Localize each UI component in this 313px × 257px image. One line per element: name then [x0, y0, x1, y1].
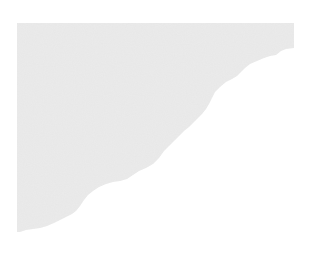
paper-fragment [17, 23, 294, 232]
image-canvas [0, 0, 313, 257]
torn-paper-shape [0, 0, 313, 257]
